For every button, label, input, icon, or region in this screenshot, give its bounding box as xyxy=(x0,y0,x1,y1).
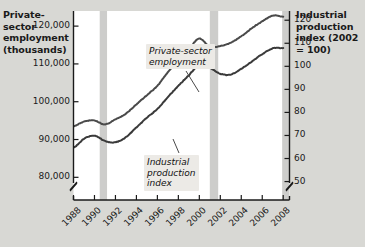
ipi-callout-line1: Industrial xyxy=(147,157,196,168)
right-axis-tick-label: 50 xyxy=(294,176,305,186)
left-axis-tick-label: 110,000 xyxy=(33,58,70,68)
right-axis-tick-label: 100 xyxy=(294,60,311,70)
recession-band xyxy=(210,11,218,200)
left-axis-tick-label: 120,000 xyxy=(33,20,70,30)
right-axis-tick-label: 120 xyxy=(294,14,311,24)
employment-callout: Private-sector employment xyxy=(146,44,215,69)
left-axis-tick-label: 90,000 xyxy=(39,134,71,144)
right-axis-tick-label: 60 xyxy=(294,153,305,163)
right-axis-tick-label: 90 xyxy=(294,83,305,93)
left-axis-tick-label: 80,000 xyxy=(39,171,71,181)
ipi-callout: Industrial production index xyxy=(144,155,199,191)
recession-band xyxy=(282,11,289,200)
employment-callout-line2: employment xyxy=(149,57,212,68)
recession-band xyxy=(100,11,107,200)
right-axis-tick-label: 70 xyxy=(294,129,305,139)
ipi-callout-line3: index xyxy=(147,178,196,189)
right-axis-tick-label: 80 xyxy=(294,106,305,116)
right-axis-tick-label: 110 xyxy=(294,37,311,47)
ipi-callout-line2: production xyxy=(147,168,196,179)
left-axis-tick-label: 100,000 xyxy=(33,96,70,106)
employment-callout-line1: Private-sector xyxy=(149,46,212,57)
